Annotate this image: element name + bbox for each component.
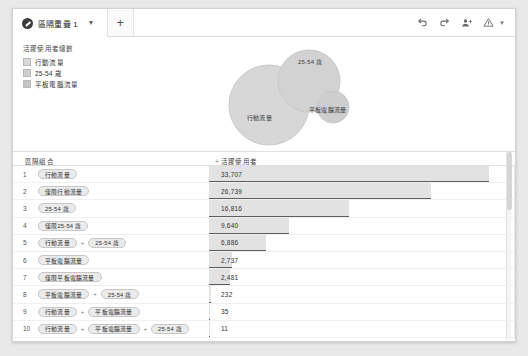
legend-item: 平板電腦流量 — [23, 78, 173, 89]
row-number: 2 — [23, 188, 34, 195]
segment-chip[interactable]: 平板電腦流量 — [38, 255, 89, 265]
table-row[interactable]: 8平板電腦流量+25-54 歲232 — [13, 286, 515, 303]
table-row[interactable]: 4僅限25-54 歲9,640 — [13, 218, 515, 235]
segment-combination-cell: 10行動流量+平板電腦流量+25-54 歲 — [13, 321, 209, 337]
redo-icon[interactable] — [438, 16, 451, 29]
metric-value: 2,737 — [209, 257, 238, 264]
row-number: 6 — [23, 257, 34, 264]
legend-item-label: 平板電腦流量 — [35, 79, 78, 89]
legend-swatch — [23, 58, 31, 66]
segment-chip[interactable]: 25-54 歲 — [151, 324, 189, 334]
table-row[interactable]: 10行動流量+平板電腦流量+25-54 歲11 — [13, 321, 515, 338]
metric-cell: 2,737 — [209, 252, 515, 268]
column-header-segments-label: 區隔組合 — [25, 158, 54, 165]
metric-value: 9,640 — [209, 222, 238, 229]
tab-spacer — [134, 9, 416, 36]
scrollbar-thumb[interactable] — [507, 152, 512, 210]
legend-title: 活躍使用者總數 — [23, 43, 173, 53]
legend: 活躍使用者總數 行動流量 25-54 歲 平板電腦流量 — [23, 43, 173, 89]
row-number: 8 — [23, 291, 34, 298]
chevron-down-icon[interactable]: ▼ — [83, 9, 99, 37]
column-header-metric[interactable]: +活躍使用者 — [209, 150, 515, 168]
table-row[interactable]: 6平板電腦流量2,737 — [13, 252, 515, 269]
legend-item-label: 行動流量 — [35, 57, 64, 67]
chip-separator: + — [81, 326, 85, 332]
add-tab-button[interactable]: + — [108, 9, 134, 36]
segment-chip[interactable]: 平板電腦流量 — [38, 289, 89, 299]
segment-chip[interactable]: 僅限平板電腦流量 — [38, 272, 102, 282]
column-header-metric-label: 活躍使用者 — [221, 158, 257, 165]
table-row[interactable]: 5行動流量+25-54 歲6,886 — [13, 235, 515, 252]
add-metric-icon[interactable]: + — [215, 158, 219, 165]
segment-combination-cell: 325-54 歲 — [13, 200, 209, 216]
segment-chip[interactable]: 僅限25-54 歲 — [38, 221, 88, 231]
tab-title: 區隔重疊 1 — [38, 18, 78, 29]
segment-combination-cell: 5行動流量+25-54 歲 — [13, 235, 209, 251]
segment-overlap-icon — [22, 18, 33, 29]
table-row[interactable]: 2僅限行動流量26,739 — [13, 183, 515, 200]
segment-chip[interactable]: 25-54 歲 — [38, 203, 76, 213]
chip-separator: + — [81, 240, 85, 246]
venn-label-mobile: 行動流量 — [247, 113, 272, 122]
legend-swatch — [23, 80, 31, 88]
segment-chip[interactable]: 25-54 歲 — [88, 238, 126, 248]
segment-combination-cell: 1行動流量 — [13, 166, 209, 182]
add-person-icon[interactable] — [460, 16, 473, 29]
metric-cell: 35 — [209, 304, 515, 320]
metric-value: 35 — [209, 308, 229, 315]
table-body: 1行動流量33,7072僅限行動流量26,739325-54 歲16,8164僅… — [13, 166, 515, 338]
row-number: 5 — [23, 239, 34, 246]
chevron-down-icon[interactable]: ▼ — [499, 20, 505, 26]
row-number: 7 — [23, 274, 34, 281]
venn-diagram: 25-54 歲 行動流量 平板電腦流量 — [209, 39, 509, 151]
segment-chip[interactable]: 行動流量 — [38, 238, 77, 248]
legend-item: 行動流量 — [23, 56, 173, 67]
segment-combination-cell: 7僅限平板電腦流量 — [13, 269, 209, 285]
metric-cell: 11 — [209, 321, 515, 337]
toolbar: ▼ — [416, 9, 515, 36]
metric-value: 26,739 — [209, 188, 242, 195]
segment-chip[interactable]: 平板電腦流量 — [88, 307, 139, 317]
metric-cell: 2,481 — [209, 269, 515, 285]
metric-cell: 232 — [209, 286, 515, 302]
row-number: 10 — [23, 325, 34, 332]
table-row[interactable]: 325-54 歲16,816 — [13, 200, 515, 217]
table-row[interactable]: 9行動流量+平板電腦流量35 — [13, 304, 515, 321]
metric-value: 232 — [209, 291, 232, 298]
chip-separator: + — [81, 309, 85, 315]
metric-cell: 9,640 — [209, 218, 515, 234]
table-row[interactable]: 7僅限平板電腦流量2,481 — [13, 269, 515, 286]
segment-combination-cell: 8平板電腦流量+25-54 歲 — [13, 286, 209, 302]
row-number: 4 — [23, 222, 34, 229]
chip-separator: + — [144, 326, 148, 332]
segment-combination-cell: 9行動流量+平板電腦流量 — [13, 304, 209, 320]
segment-chip[interactable]: 行動流量 — [38, 324, 77, 334]
undo-icon[interactable] — [416, 16, 429, 29]
metric-value: 11 — [209, 325, 228, 332]
tab-segment-overlap[interactable]: 區隔重疊 1 ▼ — [13, 9, 108, 37]
table-row[interactable]: 1行動流量33,707 — [13, 166, 515, 183]
segment-chip[interactable]: 平板電腦流量 — [88, 324, 139, 334]
vertical-scrollbar[interactable] — [506, 152, 511, 340]
app-canvas: 區隔重疊 1 ▼ + — [0, 0, 528, 356]
segment-chip[interactable]: 僅限行動流量 — [38, 186, 89, 196]
column-header-segments[interactable]: 區隔組合 — [13, 150, 209, 168]
segment-chip[interactable]: 行動流量 — [38, 169, 77, 179]
segment-chip[interactable]: 行動流量 — [38, 307, 77, 317]
legend-item: 25-54 歲 — [23, 67, 173, 78]
tab-bar: 區隔重疊 1 ▼ + — [13, 9, 515, 37]
metric-cell: 6,886 — [209, 235, 515, 251]
metric-value: 2,481 — [209, 274, 238, 281]
segment-combination-cell: 2僅限行動流量 — [13, 183, 209, 199]
overlap-table: 區隔組合 +活躍使用者 1行動流量33,7072僅限行動流量26,739325-… — [13, 151, 515, 341]
warning-triangle-icon[interactable] — [482, 16, 495, 29]
segment-combination-cell: 6平板電腦流量 — [13, 252, 209, 268]
row-number: 1 — [23, 171, 34, 178]
segment-combination-cell: 4僅限25-54 歲 — [13, 218, 209, 234]
report-card: 區隔重疊 1 ▼ + — [12, 8, 516, 342]
row-number: 3 — [23, 205, 34, 212]
legend-swatch — [23, 69, 31, 77]
metric-value: 16,816 — [209, 205, 242, 212]
metric-value: 33,707 — [209, 171, 242, 178]
segment-chip[interactable]: 25-54 歲 — [101, 289, 139, 299]
